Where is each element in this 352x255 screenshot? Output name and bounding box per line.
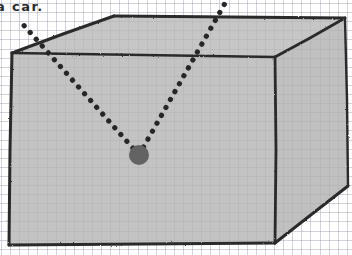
box-sketch-figure xyxy=(0,0,352,255)
box-faces xyxy=(9,16,348,245)
front-right-edge xyxy=(275,57,276,243)
point-source-dot xyxy=(129,145,149,165)
front-bottom-edge xyxy=(9,243,275,245)
sketch-page: a car. xyxy=(0,0,352,255)
